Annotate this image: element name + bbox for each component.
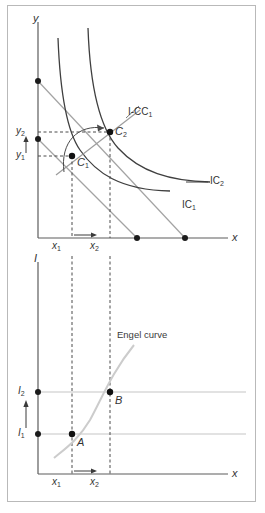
top-x2-tick-label: x2 (90, 241, 99, 251)
bottom-x-change-arrowhead (91, 468, 97, 473)
point-b-label: B (115, 395, 122, 406)
budget-2-y-intercept-dot (35, 78, 41, 84)
bottom-y-axis-label: I (34, 253, 37, 264)
icc-curve-label: I-CC1 (128, 107, 152, 117)
budget-1-x-intercept-dot (134, 235, 140, 241)
i2-axis-dot (35, 389, 41, 395)
budget-1-y-intercept-dot (35, 136, 41, 142)
point-a-label: A (77, 437, 84, 448)
bottom-i-change-arrowhead (23, 400, 28, 407)
point-a-dot (69, 431, 75, 437)
budget-2-x-intercept-dot (182, 235, 188, 241)
budget-line-1 (38, 139, 137, 238)
top-y2-tick-label: y2 (16, 126, 25, 136)
indifference-curve-1 (58, 38, 170, 191)
ic1-curve-label: IC1 (182, 200, 196, 210)
figure-svg (0, 0, 265, 513)
bottom-i2-tick-label: I2 (18, 386, 25, 396)
budget-line-2 (38, 81, 185, 238)
engel-curve-label: Engel curve (117, 330, 167, 340)
bottom-x2-tick-label: x2 (90, 477, 99, 487)
top-x-change-arrowhead (91, 232, 97, 237)
ic2-curve-label: IC2 (210, 176, 224, 186)
i1-axis-dot (35, 431, 41, 437)
c1-to-c2-arrowhead (97, 125, 104, 132)
top-x-axis-label: x (232, 232, 238, 243)
point-c2-dot (107, 129, 113, 135)
point-c1-dot (69, 153, 75, 159)
figure-container: y x y2 y1 x1 x2 I-CC1 IC2 IC1 C1 C2 I x … (0, 0, 265, 513)
point-b-dot (107, 389, 113, 395)
indifference-curve-2 (88, 28, 210, 182)
point-c1-label: C1 (77, 157, 89, 168)
bottom-x-axis-label: x (232, 468, 238, 479)
bottom-i1-tick-label: I1 (18, 428, 25, 438)
point-c2-label: C2 (115, 126, 127, 137)
top-y1-tick-label: y1 (16, 150, 25, 160)
bottom-x1-tick-label: x1 (52, 477, 61, 487)
top-x1-tick-label: x1 (52, 241, 61, 251)
top-y-axis-label: y (33, 13, 39, 24)
